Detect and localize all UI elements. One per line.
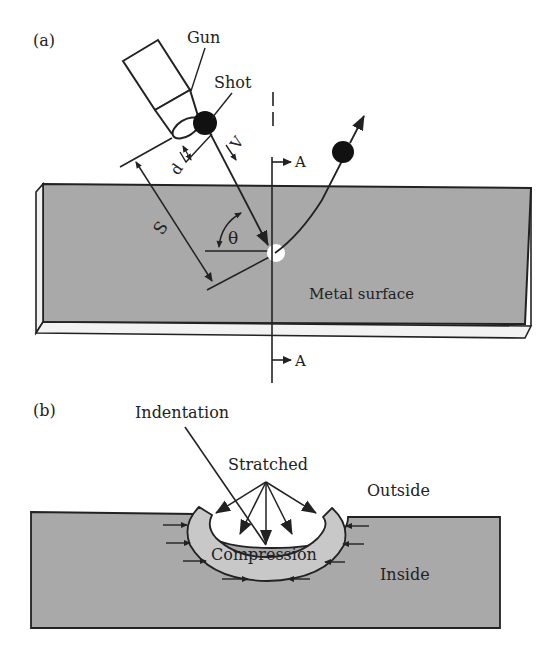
section-label-top: A [294, 153, 306, 171]
stretched-arrows [216, 482, 316, 544]
compression-label: Compression [211, 545, 317, 564]
panel-a: (a) Gun Shot d V [33, 28, 531, 383]
outside-label: Outside [367, 481, 430, 500]
metal-plate [36, 184, 531, 338]
gun-leader-line [191, 48, 205, 91]
panel-a-label: (a) [33, 31, 55, 50]
section-label-bottom: A [294, 352, 306, 370]
panel-b: (b) Indentation Stratched Outside Inside… [31, 401, 500, 628]
gun-icon [123, 40, 203, 143]
panel-b-label: (b) [33, 401, 56, 420]
inside-label: Inside [380, 565, 430, 584]
shot-peening-diagram: (a) Gun Shot d V [0, 0, 549, 648]
rebound-arrow [350, 116, 364, 143]
nozzle-reference-line [120, 138, 172, 167]
shot-label: Shot [214, 73, 252, 92]
shot-ball-icon [193, 111, 217, 135]
gun-label: Gun [187, 28, 220, 47]
stretched-label: Stratched [228, 455, 308, 474]
indentation-label: Indentation [135, 403, 229, 422]
d-label: d [167, 160, 187, 179]
rebound-shot-ball-icon [332, 141, 354, 163]
metal-surface-label: Metal surface [309, 285, 414, 303]
theta-label: θ [228, 228, 238, 248]
shot-leader-line [212, 93, 232, 118]
